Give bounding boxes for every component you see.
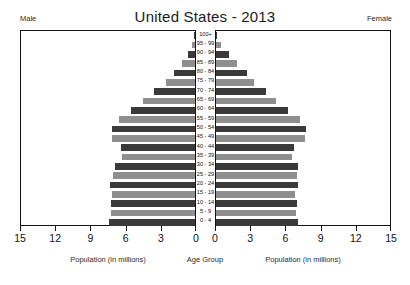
axis-tick xyxy=(356,226,357,231)
bar-female-40-44 xyxy=(216,144,294,151)
bar-female-100+ xyxy=(216,32,217,39)
axis-tick-label: 0 xyxy=(212,232,218,244)
age-group-label: 0 - 4 xyxy=(196,218,215,224)
bar-male-65-69 xyxy=(143,98,195,105)
age-group-label: 80 - 84 xyxy=(196,69,215,75)
bar-female-95-99 xyxy=(216,42,221,49)
bar-male-15-19 xyxy=(112,191,195,198)
age-group-caption: Age Group xyxy=(187,255,223,264)
age-group-label: 45 - 49 xyxy=(196,134,215,140)
bar-female-25-29 xyxy=(216,172,297,179)
bar-female-50-54 xyxy=(216,126,306,133)
age-group-label: 65 - 69 xyxy=(196,97,215,103)
bar-female-0-4 xyxy=(216,219,298,226)
age-group-label: 55 - 59 xyxy=(196,116,215,122)
age-group-label: 30 - 34 xyxy=(196,162,215,168)
bar-male-5-9 xyxy=(111,210,195,217)
bar-male-90-94 xyxy=(188,51,195,58)
axis-tick xyxy=(90,226,91,231)
axis-tick-label: 12 xyxy=(350,232,362,244)
bar-male-30-34 xyxy=(115,163,195,170)
age-group-label: 10 - 14 xyxy=(196,200,215,206)
age-group-label: 25 - 29 xyxy=(196,172,215,178)
age-group-label: 15 - 19 xyxy=(196,190,215,196)
male-bar-group xyxy=(21,31,195,225)
page-title: United States - 2013 xyxy=(0,8,410,25)
bar-female-35-39 xyxy=(216,154,292,161)
age-group-label: 20 - 24 xyxy=(196,181,215,187)
axis-tick-label: 3 xyxy=(247,232,253,244)
age-group-labels: 100+95 - 9990 - 9485 - 8980 - 8475 - 797… xyxy=(196,30,215,226)
bar-female-20-24 xyxy=(216,182,298,189)
axis-tick-label: 15 xyxy=(385,232,397,244)
bar-female-90-94 xyxy=(216,51,229,58)
axis-tick xyxy=(390,226,391,231)
male-x-axis: 15129630 xyxy=(20,226,196,250)
bar-male-100+ xyxy=(194,32,195,39)
bar-male-75-79 xyxy=(166,79,195,86)
bar-male-50-54 xyxy=(112,126,195,133)
age-group-label: 95 - 99 xyxy=(196,41,215,47)
bar-male-20-24 xyxy=(110,182,195,189)
axis-tick-label: 15 xyxy=(14,232,26,244)
axis-tick xyxy=(321,226,322,231)
bar-male-35-39 xyxy=(122,154,195,161)
axis-tick xyxy=(215,226,216,231)
age-group-label: 40 - 44 xyxy=(196,144,215,150)
female-bar-group xyxy=(216,31,390,225)
population-pyramid-chart: United States - 2013 Male Female 100+95 … xyxy=(0,0,410,285)
bar-female-65-69 xyxy=(216,98,276,105)
bar-female-60-64 xyxy=(216,107,288,114)
age-group-label: 5 - 9 xyxy=(196,209,215,215)
bar-female-15-19 xyxy=(216,191,295,198)
male-side-label: Male xyxy=(20,14,36,23)
axis-tick xyxy=(20,226,21,231)
bar-male-40-44 xyxy=(121,144,195,151)
age-group-label: 100+ xyxy=(196,32,215,38)
axis-tick-label: 9 xyxy=(87,232,93,244)
axis-tick xyxy=(285,226,286,231)
axis-tick-label: 12 xyxy=(49,232,61,244)
bar-female-75-79 xyxy=(216,79,254,86)
axis-tick xyxy=(250,226,251,231)
bar-female-30-34 xyxy=(216,163,298,170)
bar-male-95-99 xyxy=(192,42,195,49)
bar-male-85-89 xyxy=(182,60,195,67)
male-plot-area xyxy=(20,30,196,226)
age-group-label: 75 - 79 xyxy=(196,78,215,84)
bar-female-5-9 xyxy=(216,210,296,217)
bar-male-70-74 xyxy=(154,88,195,95)
female-x-axis: 03691215 xyxy=(215,226,391,250)
age-group-label: 50 - 54 xyxy=(196,125,215,131)
bar-female-10-14 xyxy=(216,200,297,207)
bar-female-85-89 xyxy=(216,60,237,67)
bar-female-70-74 xyxy=(216,88,266,95)
age-group-label: 60 - 64 xyxy=(196,106,215,112)
bar-female-55-59 xyxy=(216,116,300,123)
male-axis-caption: Population (in millions) xyxy=(70,255,145,264)
axis-tick-label: 6 xyxy=(282,232,288,244)
bar-male-0-4 xyxy=(109,219,195,226)
age-group-label: 90 - 94 xyxy=(196,50,215,56)
axis-tick xyxy=(55,226,56,231)
axis-tick xyxy=(195,226,196,231)
bar-male-25-29 xyxy=(113,172,195,179)
female-side-label: Female xyxy=(367,14,392,23)
female-plot-area xyxy=(215,30,391,226)
bar-male-10-14 xyxy=(111,200,195,207)
axis-tick-label: 6 xyxy=(123,232,129,244)
axis-tick-label: 9 xyxy=(318,232,324,244)
bar-male-55-59 xyxy=(119,116,195,123)
bar-male-60-64 xyxy=(131,107,195,114)
age-group-label: 35 - 39 xyxy=(196,153,215,159)
female-axis-caption: Population (in millions) xyxy=(265,255,340,264)
bar-male-80-84 xyxy=(174,70,195,77)
bar-female-80-84 xyxy=(216,70,247,77)
age-group-label: 70 - 74 xyxy=(196,88,215,94)
axis-tick xyxy=(126,226,127,231)
bar-male-45-49 xyxy=(112,135,195,142)
axis-tick-label: 0 xyxy=(193,232,199,244)
axis-tick xyxy=(161,226,162,231)
bar-female-45-49 xyxy=(216,135,305,142)
age-group-label: 85 - 89 xyxy=(196,60,215,66)
